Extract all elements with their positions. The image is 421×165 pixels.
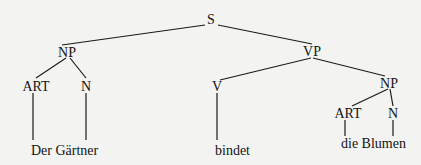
leaf-subject-phrase: Der Gärtner — [31, 143, 99, 158]
node-art-subject: ART — [22, 79, 50, 94]
node-s: S — [207, 12, 215, 27]
node-v: V — [212, 79, 222, 94]
tree-leaves: Der Gärtner bindet die Blumen — [31, 136, 406, 158]
node-art-object: ART — [334, 106, 362, 121]
edge-np-n — [70, 58, 86, 78]
syntax-tree-diagram: S NP ART N VP V NP ART N Der Gärtner bin… — [0, 0, 421, 165]
edge-np-art-object — [352, 89, 388, 106]
node-n-object: N — [388, 106, 398, 121]
edge-s-np — [62, 25, 205, 45]
leaf-verb: bindet — [215, 143, 250, 158]
edge-np-art — [36, 58, 66, 78]
node-np-subject: NP — [58, 45, 76, 60]
edge-vp-v — [220, 58, 311, 80]
edge-s-vp — [218, 25, 312, 44]
node-vp: VP — [303, 44, 321, 59]
edge-vp-np — [313, 58, 385, 76]
edge-np-n-object — [390, 89, 393, 106]
tree-nodes: S NP ART N VP V NP ART N — [22, 12, 398, 121]
node-n-subject: N — [81, 79, 91, 94]
node-np-object: NP — [380, 76, 398, 91]
leaf-object-phrase: die Blumen — [341, 136, 406, 151]
